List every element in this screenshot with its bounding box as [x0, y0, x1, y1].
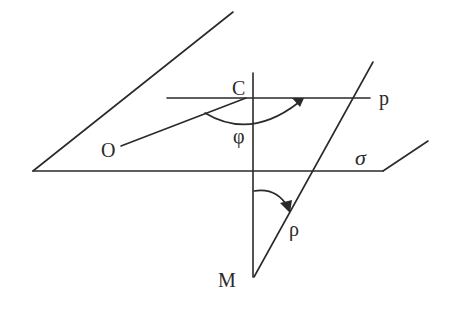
geometry-diagram: O C p φ ρ M σ	[0, 0, 457, 310]
label-p: p	[379, 87, 389, 110]
angle-phi-arc	[205, 103, 298, 124]
label-m: M	[218, 269, 236, 291]
label-phi: φ	[233, 125, 245, 148]
label-plane-sigma: σ	[355, 145, 367, 170]
plane-left-edge	[33, 12, 233, 171]
label-c: C	[232, 77, 245, 99]
label-o: O	[101, 139, 115, 161]
plane-outline	[33, 12, 428, 171]
angle-rho-arrowhead	[280, 200, 292, 213]
plane-right-edge	[383, 141, 428, 171]
label-rho: ρ	[289, 218, 299, 241]
